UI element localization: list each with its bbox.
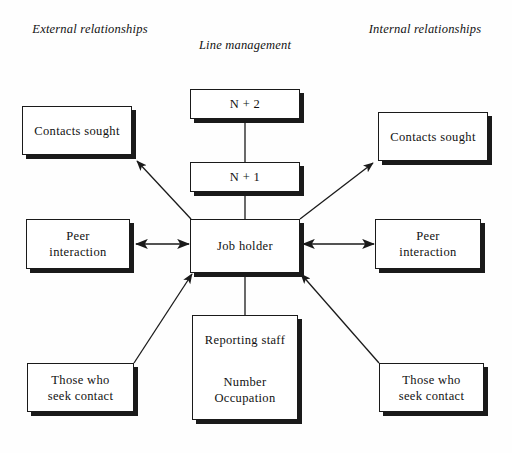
column-header-external-line-1: External bbox=[32, 22, 77, 36]
node-external-peer-interaction[interactable]: Peer interaction bbox=[26, 219, 130, 269]
node-job-holder[interactable]: Job holder bbox=[190, 219, 300, 273]
node-reporting-staff-occupation: Occupation bbox=[214, 390, 275, 406]
arrow-internal-seek-contact-to-jobholder bbox=[301, 274, 379, 363]
node-external-peer-interaction-line-2: interaction bbox=[49, 244, 106, 260]
node-external-those-who-seek-contact-line-2: seek contact bbox=[48, 388, 114, 404]
node-reporting-staff[interactable]: Reporting staff Number Occupation bbox=[192, 315, 298, 420]
node-external-contacts-sought[interactable]: Contacts sought bbox=[22, 106, 132, 155]
node-external-those-who-seek-contact-line-1: Those who bbox=[51, 372, 109, 388]
column-header-internal-line-1: Internal bbox=[369, 22, 411, 36]
node-reporting-staff-number: Number bbox=[223, 374, 266, 390]
node-internal-those-who-seek-contact-line-2: seek contact bbox=[399, 388, 465, 404]
node-external-contacts-sought-label: Contacts sought bbox=[34, 123, 119, 139]
column-header-line-management: Line management bbox=[175, 38, 315, 52]
node-job-holder-label: Job holder bbox=[217, 238, 273, 254]
node-internal-those-who-seek-contact[interactable]: Those who seek contact bbox=[379, 363, 484, 412]
column-header-external-line-2: relationships bbox=[80, 22, 147, 36]
node-n-plus-2-label: N + 2 bbox=[230, 96, 260, 112]
node-n-plus-2[interactable]: N + 2 bbox=[190, 89, 300, 119]
node-internal-those-who-seek-contact-line-1: Those who bbox=[402, 372, 460, 388]
column-header-external: External relationships bbox=[20, 22, 160, 36]
arrow-external-seek-contact-to-jobholder bbox=[134, 274, 192, 363]
arrow-jobholder-to-external-contacts-sought bbox=[137, 161, 191, 219]
node-external-peer-interaction-line-1: Peer bbox=[66, 228, 90, 244]
node-n-plus-1-label: N + 1 bbox=[230, 169, 260, 185]
diagram-canvas: External relationships Line management I… bbox=[0, 0, 512, 453]
node-internal-contacts-sought-label: Contacts sought bbox=[390, 129, 475, 145]
node-internal-peer-interaction-line-1: Peer bbox=[416, 228, 440, 244]
node-reporting-staff-title: Reporting staff bbox=[205, 332, 285, 348]
column-header-internal-line-2: relationships bbox=[414, 22, 481, 36]
node-internal-contacts-sought[interactable]: Contacts sought bbox=[378, 112, 488, 161]
arrow-jobholder-to-internal-contacts-sought bbox=[300, 163, 373, 219]
column-header-line-management-line-1: Line management bbox=[199, 38, 291, 52]
node-external-those-who-seek-contact[interactable]: Those who seek contact bbox=[27, 363, 134, 412]
column-header-internal: Internal relationships bbox=[355, 22, 495, 36]
node-internal-peer-interaction-line-2: interaction bbox=[399, 244, 456, 260]
node-internal-peer-interaction[interactable]: Peer interaction bbox=[375, 219, 481, 269]
node-n-plus-1[interactable]: N + 1 bbox=[190, 162, 300, 192]
